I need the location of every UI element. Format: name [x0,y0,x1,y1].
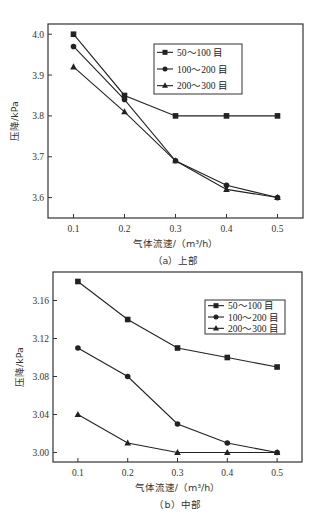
x-tick-label: 0.3 [170,224,182,234]
y-axis-title: 压降/kPa [14,347,25,387]
y-tick-label: 3.6 [32,193,44,203]
circle-marker [163,67,168,72]
circle-marker [122,97,128,103]
triangle-marker [70,63,77,69]
x-axis-title: 气体流速/（m³/h） [133,238,219,249]
y-tick-label: 3.04 [32,410,49,420]
circle-marker [214,315,219,320]
x-tick-label: 0.5 [272,224,284,234]
circle-marker [75,345,81,351]
square-marker [125,317,131,323]
legend-label: 100～200 目 [228,313,279,323]
legend-label: 50～100 目 [228,301,274,311]
y-tick-label: 3.7 [32,152,44,162]
x-tick-label: 0.4 [221,468,233,478]
legend-label: 100～200 目 [177,65,228,75]
y-tick-label: 3.12 [32,334,49,344]
chart-panel-a: 3.63.73.83.94.00.10.20.30.40.5气体流速/（m³/h… [9,24,303,266]
square-marker [214,303,219,308]
square-marker [175,345,181,351]
y-tick-label: 3.8 [32,111,44,121]
square-marker [225,355,231,361]
y-tick-label: 3.9 [32,71,44,81]
legend-label: 50～100 目 [177,48,223,58]
y-tick-label: 4.0 [32,30,44,40]
series-3 [75,411,281,455]
square-marker [224,113,230,119]
x-axis-title: 气体流速/（m³/h） [135,482,221,493]
y-tick-label: 3.00 [32,448,49,458]
x-tick-label: 0.2 [119,224,131,234]
x-tick-label: 0.2 [122,468,134,478]
x-tick-label: 0.4 [221,224,233,234]
chart-panel-b: 3.003.043.083.123.160.10.20.30.40.5气体流速/… [14,272,302,510]
square-marker [274,364,280,370]
y-tick-label: 3.08 [32,372,49,382]
triangle-marker [75,411,82,417]
y-axis-title: 压降/kPa [9,101,20,141]
square-marker [173,113,179,119]
x-tick-label: 0.5 [271,468,283,478]
panel-caption: （a）上部 [153,255,199,266]
circle-marker [125,374,131,380]
circle-marker [225,440,231,446]
figure: 3.63.73.83.94.00.10.20.30.40.5气体流速/（m³/h… [0,0,324,527]
square-marker [163,50,168,55]
series-line [78,348,277,453]
triangle-marker [124,439,131,445]
square-marker [71,31,77,37]
x-tick-label: 0.1 [72,468,84,478]
legend: 50～100 目100～200 目200～300 目 [205,300,285,334]
y-tick-label: 3.16 [32,296,49,306]
square-marker [275,113,281,119]
circle-marker [175,421,181,427]
square-marker [75,279,81,285]
x-tick-label: 0.3 [172,468,184,478]
panel-caption: （b）中部 [154,499,200,510]
x-tick-label: 0.1 [68,224,80,234]
legend: 50～100 目100～200 目200～300 目 [154,44,242,94]
circle-marker [71,44,77,50]
legend-label: 200～300 目 [177,81,228,91]
legend-label: 200～300 目 [228,324,279,334]
